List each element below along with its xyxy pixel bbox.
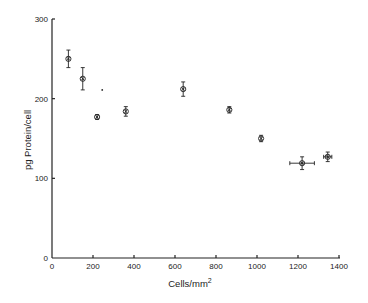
ticks: 02004006008001000120014000100200300 — [35, 15, 349, 271]
x-tick-label: 1000 — [248, 262, 266, 271]
y-tick-label: 300 — [35, 15, 49, 24]
data-point — [123, 107, 128, 117]
x-tick-label: 600 — [168, 262, 182, 271]
data-point — [80, 68, 85, 90]
data-point — [181, 82, 186, 96]
data-point — [324, 152, 332, 162]
x-axis-title: Cells/mm2 — [168, 277, 212, 289]
axes — [52, 19, 340, 258]
x-tick-label: 200 — [86, 262, 100, 271]
chart: 02004006008001000120014000100200300 Cell… — [0, 0, 368, 303]
y-tick-label: 0 — [44, 254, 49, 263]
y-tick-label: 200 — [35, 95, 49, 104]
x-tick-label: 400 — [127, 262, 141, 271]
y-axis-title: pg Protein/cell — [22, 110, 33, 170]
y-tick-label: 100 — [35, 174, 49, 183]
data-point — [95, 114, 100, 119]
data-dot — [101, 89, 103, 91]
x-tick-label: 800 — [209, 262, 223, 271]
data-points — [66, 50, 332, 170]
x-tick-label: 0 — [50, 262, 55, 271]
x-tick-label: 1200 — [289, 262, 307, 271]
data-point — [259, 135, 264, 141]
x-tick-label: 1400 — [330, 262, 348, 271]
data-point — [66, 50, 71, 68]
point-dot — [101, 89, 103, 91]
data-point — [290, 157, 315, 170]
data-point — [227, 107, 232, 113]
